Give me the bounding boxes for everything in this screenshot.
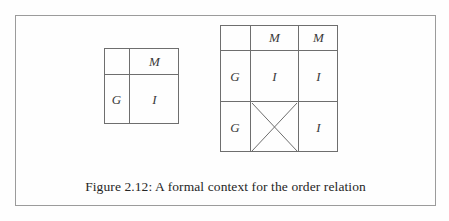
figure-root: M G I M M G I I G I Figure 2.12: A forma…: [0, 0, 449, 221]
table-large-cell-r2c0: G: [220, 102, 250, 152]
table-large-cell-r2c1: [251, 102, 298, 152]
figure-caption: Figure 2.12: A formal context for the or…: [15, 179, 436, 195]
table-large-cell-r0c1: M: [251, 25, 298, 50]
table-small-cell-r0c0: [104, 48, 129, 74]
table-large-cell-r2c2: I: [299, 102, 338, 152]
table-large-cell-r1c2: I: [299, 51, 338, 101]
table-small-cell-r0c1: M: [130, 48, 179, 74]
table-large-cell-r0c2: M: [299, 25, 338, 50]
table-small-cell-r1c1: I: [130, 75, 179, 124]
formal-context-table-small: M G I: [104, 48, 179, 124]
table-large-cell-r0c0: [220, 25, 250, 50]
table-large-cell-r1c1: I: [251, 51, 298, 101]
table-small-cell-r1c0: G: [104, 75, 129, 124]
table-large-cell-r1c0: G: [220, 51, 250, 101]
cross-mark-icon: [251, 102, 298, 152]
formal-context-table-large: M M G I I G I: [220, 25, 338, 152]
